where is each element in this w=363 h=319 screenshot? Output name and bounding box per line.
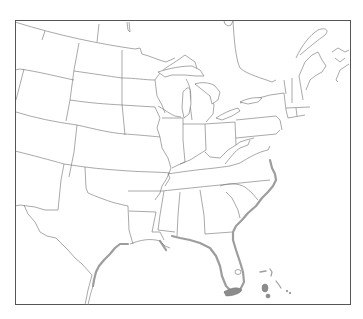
map-container: [0, 0, 363, 319]
lake-okeechobee: [235, 270, 241, 275]
us-outline-map: [0, 0, 363, 319]
